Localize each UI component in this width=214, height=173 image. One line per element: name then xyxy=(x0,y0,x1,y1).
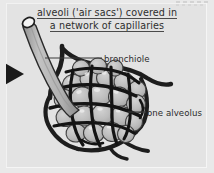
left-edge-arrowhead-icon xyxy=(0,58,24,90)
figure-title-line-1: alveoli ('air sacs') covered in xyxy=(0,7,214,18)
figure-title-line-1-text: alveoli ('air sacs') covered in xyxy=(37,7,177,19)
figure-title-line-2: a network of capillaries xyxy=(0,20,214,31)
figure-title-line-2-text: a network of capillaries xyxy=(50,20,164,32)
figure-canvas: alveoli ('air sacs') covered in a networ… xyxy=(0,0,214,173)
corner-tick-marks-icon xyxy=(176,2,208,5)
label-bronchiole: bronchiole xyxy=(104,54,150,64)
label-one-alveolus: one alveolus xyxy=(147,108,202,118)
